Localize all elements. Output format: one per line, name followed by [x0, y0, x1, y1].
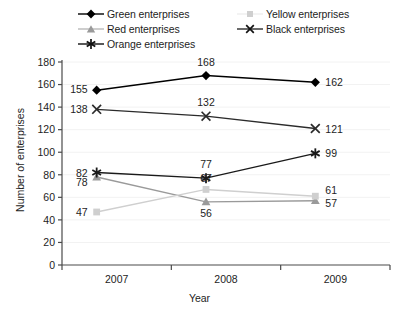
legend-label: Orange enterprises: [107, 39, 195, 50]
y-tick-label: 80: [43, 169, 55, 181]
chart-canvas: 0204060801001201401601802007200820091551…: [0, 54, 399, 284]
legend-label: Black enterprises: [266, 24, 345, 35]
y-tick-label: 100: [37, 146, 55, 158]
diamond-marker-icon: [78, 8, 104, 20]
legend-item-yellow-enterprises[interactable]: Yellow enterprises: [237, 8, 349, 20]
legend-label: Red enterprises: [107, 24, 180, 35]
chart-page: Green enterprises Red enterprises: [0, 0, 399, 321]
y-tick-label: 120: [37, 123, 55, 135]
data-point-label: 121: [325, 123, 343, 135]
data-point-label: 56: [200, 207, 212, 219]
data-point-label: 82: [76, 167, 88, 179]
y-tick-label: 180: [37, 56, 55, 68]
data-point-label: 168: [197, 56, 215, 68]
y-axis-title: Number of enterprises: [14, 70, 26, 250]
data-point-label: 162: [325, 76, 343, 88]
data-point-label: 61: [325, 184, 337, 196]
x-axis-title: Year: [0, 292, 399, 304]
x-tick-label: 2007: [105, 273, 129, 284]
y-tick-label: 160: [37, 78, 55, 90]
x-tick-label: 2008: [214, 273, 238, 284]
data-point-label: 77: [200, 158, 212, 170]
legend-label: Yellow enterprises: [266, 9, 349, 20]
x-marker-icon: [237, 23, 263, 35]
data-point-label: 155: [70, 83, 88, 95]
y-tick-label: 40: [43, 214, 55, 226]
data-point-label: 132: [197, 96, 215, 108]
data-point-label: 67: [200, 172, 212, 184]
data-point-label: 99: [325, 147, 337, 159]
y-tick-label: 0: [49, 259, 55, 271]
y-tick-label: 140: [37, 101, 55, 113]
triangle-marker-icon: [78, 23, 104, 35]
x-tick-label: 2009: [324, 273, 348, 284]
chart-legend: Green enterprises Red enterprises: [0, 8, 399, 54]
legend-item-red-enterprises[interactable]: Red enterprises: [78, 23, 180, 35]
data-point-label: 47: [76, 206, 88, 218]
square-marker-icon: [237, 8, 263, 20]
data-point-label: 138: [70, 103, 88, 115]
legend-item-black-enterprises[interactable]: Black enterprises: [237, 23, 345, 35]
legend-item-orange-enterprises[interactable]: Orange enterprises: [78, 38, 195, 50]
data-point-label: 57: [325, 197, 337, 209]
series-black-enterprises: 138132121: [70, 96, 343, 134]
asterisk-marker-icon: [78, 38, 104, 50]
legend-item-green-enterprises[interactable]: Green enterprises: [78, 8, 189, 20]
series-green-enterprises: 155168162: [70, 56, 343, 96]
line-chart-plot: 0204060801001201401601802007200820091551…: [0, 54, 399, 321]
y-tick-label: 60: [43, 191, 55, 203]
y-tick-label: 20: [43, 236, 55, 248]
legend-label: Green enterprises: [107, 9, 189, 20]
